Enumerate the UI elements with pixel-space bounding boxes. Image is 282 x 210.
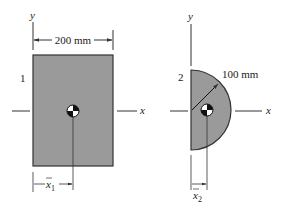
shape-2-x-axis-label: x: [265, 104, 271, 116]
shape-1-x-axis-label: x: [139, 104, 145, 116]
shape-1-centroid-icon: [67, 105, 79, 117]
shape-2-centroid-label: x2: [192, 189, 202, 204]
composite-area-diagram: y 200 mm 1 x x1 y: [0, 0, 282, 210]
shape-1-rectangle-group: y 200 mm 1 x x1: [12, 9, 145, 193]
shape-2-radius-label: 100 mm: [222, 68, 259, 80]
shape-1-y-axis-label: y: [29, 9, 35, 21]
shape-1-centroid-label: x1: [45, 178, 55, 193]
shape-2-semicircle-group: y 2 100 mm x x2: [170, 10, 271, 204]
shape-2-y-axis-label: y: [187, 10, 193, 22]
shape-2-centroid-icon: [201, 104, 213, 116]
shape-2-label: 2: [178, 71, 184, 83]
shape-1-width-label: 200 mm: [55, 34, 92, 46]
shape-1-label: 1: [20, 72, 26, 84]
